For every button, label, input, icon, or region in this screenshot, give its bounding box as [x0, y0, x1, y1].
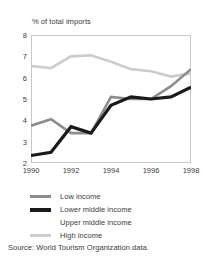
legend-swatch	[30, 221, 51, 224]
legend-swatch	[30, 208, 51, 212]
y-tick-label: 4	[5, 116, 27, 125]
y-tick-label: 5	[5, 95, 27, 104]
y-tick-label: 7	[5, 52, 27, 61]
legend-label: Lower middle income	[60, 205, 132, 214]
legend-swatch	[30, 234, 51, 237]
x-tick-label: 1996	[143, 166, 160, 175]
legend-label: High income	[60, 231, 102, 240]
chart-figure: % of total imports 8765432 1990199219941…	[0, 0, 217, 263]
plot-area	[31, 35, 191, 163]
chart-legend: Low incomeLower middle incomeUpper middl…	[30, 190, 210, 242]
series-line	[31, 69, 191, 133]
legend-item: Upper middle income	[30, 216, 210, 229]
y-axis-tick-labels: 8765432	[0, 35, 27, 163]
x-tick-label: 1992	[63, 166, 80, 175]
x-tick-label: 1994	[103, 166, 120, 175]
x-axis-tick-labels: 19901992199419961998	[31, 166, 191, 180]
legend-item: Low income	[30, 190, 210, 203]
source-note: Source: World Tourism Organization data.	[8, 243, 149, 252]
y-tick-label: 6	[5, 73, 27, 82]
y-tick-label: 3	[5, 137, 27, 146]
x-tick-label: 1990	[23, 166, 40, 175]
legend-label: Low income	[60, 192, 101, 201]
plot-lines	[31, 35, 191, 163]
y-axis-title: % of total imports	[32, 17, 91, 26]
legend-label: Upper middle income	[60, 218, 132, 227]
series-line	[31, 55, 191, 76]
legend-item: High income	[30, 229, 210, 242]
legend-swatch	[30, 195, 51, 198]
legend-item: Lower middle income	[30, 203, 210, 216]
y-tick-label: 8	[5, 31, 27, 40]
x-tick-label: 1998	[183, 166, 200, 175]
